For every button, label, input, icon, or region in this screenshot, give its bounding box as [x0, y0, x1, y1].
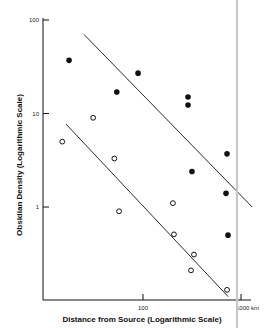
open-point — [192, 252, 197, 257]
open-point — [60, 139, 65, 144]
filled-point — [66, 58, 72, 64]
filled-point — [185, 94, 191, 100]
chart-background — [0, 0, 269, 328]
y-axis-title: Obsidian Density (Logarithmic Scale) — [15, 94, 24, 236]
y-tick-label: 10 — [32, 111, 39, 117]
filled-point — [224, 151, 230, 157]
y-tick-label: 100 — [29, 17, 40, 23]
filled-point — [225, 232, 231, 238]
x-tick-label: 1000 km — [236, 305, 259, 311]
open-point — [171, 201, 176, 206]
filled-point — [185, 102, 191, 108]
open-point — [225, 287, 230, 292]
filled-point — [189, 169, 195, 175]
x-tick-label: 100 — [138, 305, 149, 311]
open-point — [189, 268, 194, 273]
filled-point — [135, 70, 141, 76]
scatter-chart: 1001011001000 km Distance from Source (L… — [0, 0, 269, 328]
open-point — [91, 115, 96, 120]
filled-point — [114, 89, 120, 95]
filled-point — [223, 191, 229, 197]
open-point — [117, 209, 122, 214]
open-point — [172, 232, 177, 237]
open-point — [112, 156, 117, 161]
x-axis-title: Distance from Source (Logarithmic Scale) — [62, 315, 221, 324]
